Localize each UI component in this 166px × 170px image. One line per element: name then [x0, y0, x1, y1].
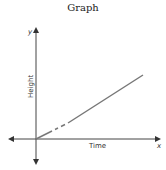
y-axis-letter: y	[27, 28, 33, 36]
data-line	[36, 75, 143, 139]
x-axis-letter: x	[156, 142, 162, 150]
y-axis-label: Height	[27, 75, 35, 98]
graph-canvas: y x Time Height	[0, 0, 166, 170]
x-axis-label: Time	[88, 142, 106, 150]
